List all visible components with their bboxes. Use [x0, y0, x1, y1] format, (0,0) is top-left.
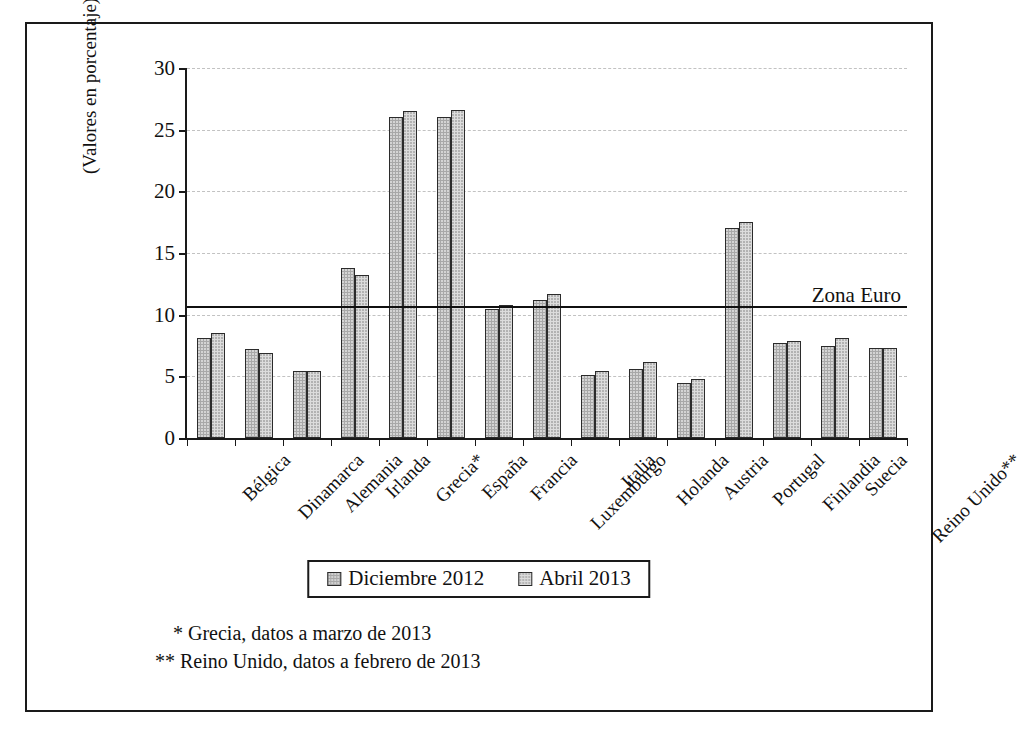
bar: [787, 341, 801, 438]
y-tick-label: 30: [154, 58, 175, 79]
chart-footnotes: * Grecia, datos a marzo de 2013 ** Reino…: [155, 620, 480, 675]
bar-group: [869, 68, 898, 438]
x-tick-mark: [715, 438, 716, 446]
bar-group: [389, 68, 418, 438]
bar: [595, 371, 609, 438]
y-tick-label: 5: [165, 366, 176, 387]
bar: [341, 268, 355, 438]
bar: [211, 333, 225, 438]
bar: [725, 228, 739, 438]
y-tick-label: 20: [154, 181, 175, 202]
x-tick-mark: [763, 438, 764, 446]
bar: [403, 111, 417, 438]
legend-item-abril-2013: Abril 2013: [518, 568, 631, 589]
y-tick-label: 0: [165, 428, 176, 449]
x-axis-label: Bélgica: [239, 450, 293, 504]
plot-area: 051015202530 BélgicaDinamarcaAlemaniaIrl…: [185, 68, 907, 440]
x-axis-label: España: [478, 450, 530, 502]
bar: [533, 300, 547, 438]
bar: [869, 348, 883, 438]
legend-label-abril-2013: Abril 2013: [539, 568, 631, 589]
x-axis-label: Holanda: [672, 450, 731, 509]
y-tick-mark: [179, 376, 187, 378]
y-tick-mark: [179, 130, 187, 132]
x-tick-mark: [475, 438, 476, 446]
legend-item-diciembre-2012: Diciembre 2012: [327, 568, 484, 589]
bar-group: [821, 68, 850, 438]
bar: [451, 110, 465, 438]
x-tick-mark: [571, 438, 572, 446]
bar-group: [725, 68, 754, 438]
y-axis-title: (Valores en porcentaje): [79, 0, 101, 174]
chart-legend: Diciembre 2012 Abril 2013: [307, 560, 650, 598]
bar-group: [245, 68, 274, 438]
x-axis-label: Reino Unido**: [928, 450, 1021, 546]
bar-group: [533, 68, 562, 438]
x-tick-mark: [427, 438, 428, 446]
legend-label-diciembre-2012: Diciembre 2012: [348, 568, 484, 589]
bar: [821, 346, 835, 439]
x-tick-mark: [907, 438, 908, 446]
x-tick-mark: [859, 438, 860, 446]
bar-group: [677, 68, 706, 438]
bar: [389, 117, 403, 438]
y-tick-mark: [179, 191, 187, 193]
x-tick-mark: [187, 438, 188, 446]
bar-group: [629, 68, 658, 438]
bar-group: [485, 68, 514, 438]
bar: [293, 371, 307, 438]
bars-layer: [187, 68, 907, 438]
x-tick-mark: [667, 438, 668, 446]
bar: [307, 371, 321, 438]
bar: [691, 379, 705, 438]
bar: [437, 117, 451, 438]
bar: [773, 343, 787, 438]
bar: [677, 383, 691, 439]
x-axis-label: Grecia*: [431, 450, 487, 506]
legend-swatch-icon-abril-2013: [518, 572, 532, 586]
y-tick-mark: [179, 438, 187, 440]
bar: [883, 348, 897, 438]
legend-swatch-icon-diciembre-2012: [327, 572, 341, 586]
zona-euro-label: Zona Euro: [812, 283, 901, 308]
bar: [485, 309, 499, 439]
y-tick-label: 10: [154, 304, 175, 325]
x-tick-mark: [283, 438, 284, 446]
x-axis-label: Francia: [526, 450, 580, 504]
y-tick-label: 25: [154, 119, 175, 140]
bar-group: [293, 68, 322, 438]
bar-group: [341, 68, 370, 438]
bar: [629, 369, 643, 438]
bar: [835, 338, 849, 438]
y-tick-mark: [179, 253, 187, 255]
x-tick-mark: [619, 438, 620, 446]
bar-group: [197, 68, 226, 438]
x-tick-mark: [811, 438, 812, 446]
x-tick-mark: [331, 438, 332, 446]
y-tick-mark: [179, 68, 187, 70]
bar-group: [773, 68, 802, 438]
footnote-reino-unido: ** Reino Unido, datos a febrero de 2013: [155, 648, 480, 676]
zona-euro-reference-line: Zona Euro: [187, 306, 907, 308]
bar: [259, 353, 273, 438]
chart-figure-frame: (Valores en porcentaje) 051015202530 Bél…: [25, 22, 933, 712]
bar: [355, 275, 369, 438]
bar-group: [581, 68, 610, 438]
bar: [245, 349, 259, 438]
x-tick-mark: [235, 438, 236, 446]
bar: [739, 222, 753, 438]
y-tick-label: 15: [154, 243, 175, 264]
footnote-grecia: * Grecia, datos a marzo de 2013: [155, 620, 480, 648]
bar: [197, 338, 211, 438]
bar-group: [437, 68, 466, 438]
x-tick-mark: [379, 438, 380, 446]
y-tick-mark: [179, 315, 187, 317]
bar: [499, 305, 513, 438]
bar: [581, 375, 595, 438]
bar: [643, 362, 657, 438]
x-tick-mark: [523, 438, 524, 446]
bar: [547, 294, 561, 438]
